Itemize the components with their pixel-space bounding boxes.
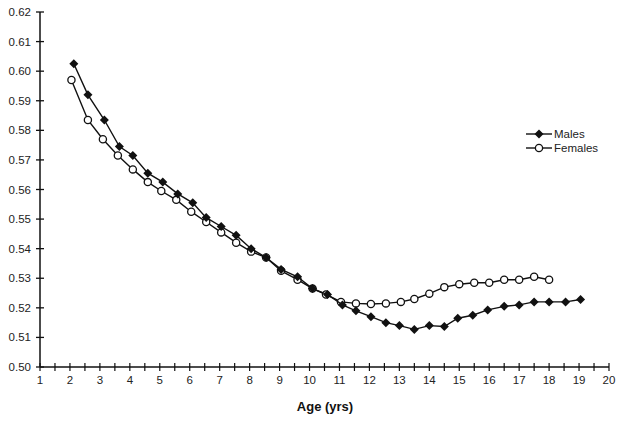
filled-diamond-icon	[535, 130, 544, 139]
data-point-diamond	[500, 302, 509, 311]
data-point-diamond	[515, 300, 524, 309]
data-point-diamond	[440, 322, 449, 331]
y-axis: 0.500.510.520.530.540.550.560.570.580.59…	[9, 6, 44, 373]
data-point-circle	[486, 279, 493, 286]
data-point-circle	[99, 136, 106, 143]
x-tick-label: 10	[303, 374, 316, 386]
data-point-diamond	[545, 297, 554, 306]
x-tick-label: 14	[423, 374, 436, 386]
data-point-diamond	[395, 321, 404, 330]
x-tick-label: 7	[216, 374, 222, 386]
x-tick-label: 19	[573, 374, 586, 386]
y-tick-label: 0.55	[9, 213, 31, 225]
data-point-circle	[68, 76, 75, 83]
y-tick-label: 0.52	[9, 302, 31, 314]
legend-item-females: Females	[526, 142, 598, 154]
data-point-circle	[546, 276, 553, 283]
data-point-circle	[129, 166, 136, 173]
y-tick-label: 0.61	[9, 36, 31, 48]
data-point-diamond	[366, 312, 375, 321]
series-line	[74, 64, 581, 330]
y-tick-label: 0.60	[9, 65, 31, 77]
x-tick-label: 15	[453, 374, 466, 386]
x-tick-label: 12	[363, 374, 376, 386]
y-tick-label: 0.59	[9, 95, 31, 107]
data-point-diamond	[425, 321, 434, 330]
x-tick-label: 5	[157, 374, 163, 386]
data-point-diamond	[561, 297, 570, 306]
open-circle-icon	[535, 144, 542, 151]
data-point-diamond	[530, 297, 539, 306]
x-axis: 1234567891011121314151617181920	[37, 363, 616, 386]
x-tick-label: 16	[483, 374, 496, 386]
data-point-circle	[531, 273, 538, 280]
data-point-diamond	[576, 295, 585, 304]
legend-item-males: Males	[526, 128, 585, 140]
data-point-circle	[471, 279, 478, 286]
data-point-circle	[144, 179, 151, 186]
series-males	[69, 59, 585, 334]
data-point-circle	[516, 276, 523, 283]
x-tick-label: 13	[393, 374, 406, 386]
legend-label-females: Females	[554, 142, 598, 154]
series-layer	[68, 59, 585, 334]
data-point-circle	[411, 295, 418, 302]
y-tick-label: 0.50	[9, 361, 31, 373]
data-point-circle	[382, 300, 389, 307]
data-point-circle	[188, 208, 195, 215]
data-point-circle	[352, 300, 359, 307]
data-point-circle	[114, 152, 121, 159]
data-point-circle	[84, 116, 91, 123]
data-point-circle	[158, 187, 165, 194]
data-point-diamond	[483, 305, 492, 314]
data-point-diamond	[115, 142, 124, 151]
x-axis-title: Age (yrs)	[297, 399, 353, 414]
data-point-circle	[441, 284, 448, 291]
y-tick-label: 0.56	[9, 184, 31, 196]
x-tick-label: 17	[513, 374, 526, 386]
x-tick-label: 9	[276, 374, 282, 386]
x-tick-label: 6	[187, 374, 193, 386]
data-point-circle	[456, 281, 463, 288]
data-point-circle	[397, 298, 404, 305]
series-line	[71, 80, 549, 304]
data-point-diamond	[468, 311, 477, 320]
y-tick-label: 0.58	[9, 124, 31, 136]
x-tick-label: 1	[37, 374, 43, 386]
x-tick-label: 18	[543, 374, 556, 386]
y-tick-label: 0.62	[9, 6, 31, 18]
y-tick-label: 0.51	[9, 331, 31, 343]
data-point-circle	[426, 290, 433, 297]
x-tick-label: 8	[246, 374, 252, 386]
data-point-circle	[233, 239, 240, 246]
y-tick-label: 0.57	[9, 154, 31, 166]
x-tick-label: 20	[603, 374, 616, 386]
y-tick-label: 0.54	[9, 243, 32, 255]
data-point-circle	[501, 276, 508, 283]
line-chart: 0.500.510.520.530.540.550.560.570.580.59…	[0, 0, 623, 425]
x-tick-label: 2	[67, 374, 73, 386]
data-point-diamond	[381, 318, 390, 327]
data-point-diamond	[100, 115, 109, 124]
legend-label-males: Males	[554, 128, 585, 140]
data-point-diamond	[410, 325, 419, 334]
x-tick-label: 11	[333, 374, 345, 386]
data-point-diamond	[83, 90, 92, 99]
series-females	[68, 76, 553, 307]
legend: Males Females	[526, 128, 598, 154]
data-point-diamond	[453, 314, 462, 323]
x-tick-label: 3	[97, 374, 103, 386]
y-tick-label: 0.53	[9, 272, 31, 284]
data-point-diamond	[351, 306, 360, 315]
data-point-diamond	[69, 59, 78, 68]
data-point-circle	[367, 300, 374, 307]
x-tick-label: 4	[127, 374, 134, 386]
